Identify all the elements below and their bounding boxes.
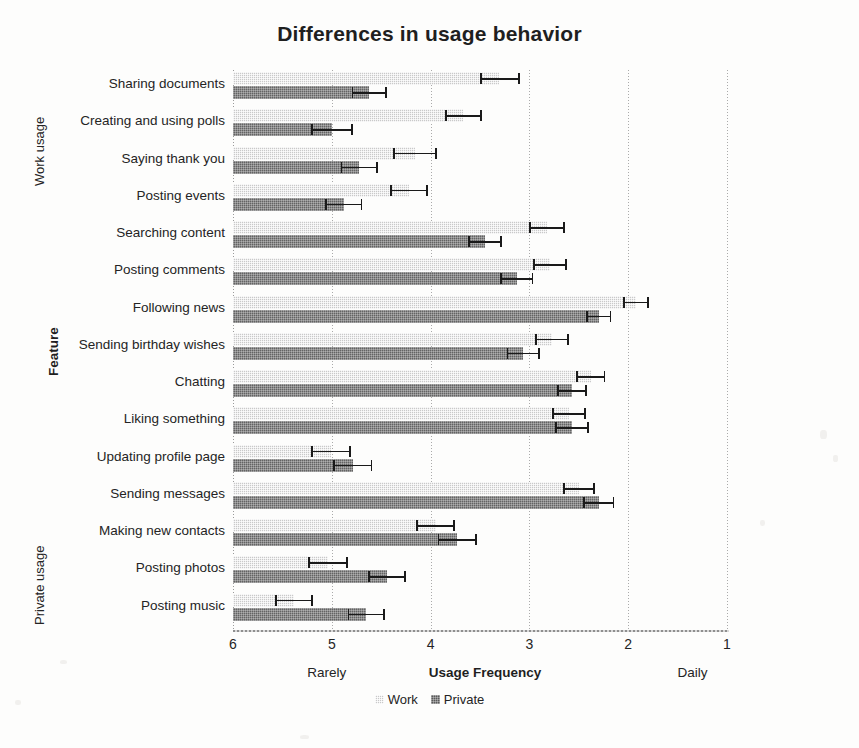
bar-group [233,519,727,552]
group-label-private-usage: Private usage [32,546,47,626]
error-bar-private [352,86,388,99]
scan-artifact [833,455,838,462]
bar-private [233,421,572,434]
bar-group [233,594,727,627]
bar-group [233,445,727,478]
error-bar-private [557,384,587,397]
error-bar-private [555,421,589,434]
error-bar-work [552,407,586,420]
x-axis-anchor-daily: Daily [632,665,752,680]
error-bar-work [393,147,436,160]
bar-group [233,184,727,217]
gridline-1 [727,70,728,629]
legend-swatch-private-icon [431,695,440,704]
bar-work [233,184,409,197]
bar-work [233,72,499,85]
chart-canvas: Differences in usage behavior Sharing do… [0,0,859,748]
bar-work [233,370,591,383]
error-bar-work [311,445,351,458]
y-axis-title: Feature [46,327,61,376]
y-axis-label: Sending messages [25,486,225,501]
bar-group [233,296,727,329]
error-bar-private [438,533,478,546]
scan-artifact [15,700,21,705]
scan-artifact [60,660,67,664]
chart-legend: Work Private [0,692,859,707]
bar-private [233,384,572,397]
x-axis-anchor-rarely: Rarely [267,665,387,680]
y-axis-label: Liking something [25,411,225,426]
error-bar-work [535,333,569,346]
bar-work [233,109,463,122]
y-axis-label: Searching content [25,225,225,240]
error-bar-work [308,556,348,569]
bar-work [233,333,552,346]
x-tick-1: 1 [707,636,747,652]
bar-private [233,533,457,546]
y-axis-label: Following news [25,300,225,315]
error-bar-private [507,347,541,360]
x-axis-line [233,630,729,632]
scan-artifact [820,430,827,439]
bar-work [233,221,547,234]
bar-group [233,407,727,440]
y-axis-label: Posting music [25,598,225,613]
x-tick-2: 2 [608,636,648,652]
bar-private [233,235,485,248]
y-axis-label: Saying thank you [25,151,225,166]
error-bar-work [563,482,595,495]
x-tick-3: 3 [509,636,549,652]
error-bar-work [275,594,313,607]
y-axis-label: Posting photos [25,560,225,575]
bar-group [233,72,727,105]
error-bar-private [500,272,534,285]
bar-private [233,496,599,509]
x-tick-5: 5 [312,636,352,652]
error-bar-work [445,109,482,122]
legend-swatch-work-icon [375,695,384,704]
error-bar-work [623,296,649,309]
bar-work [233,519,436,532]
error-bar-private [333,459,373,472]
bar-group [233,147,727,180]
bar-group [233,482,727,515]
group-label-work-usage: Work usage [32,116,47,185]
error-bar-work [416,519,456,532]
error-bar-work [533,258,567,271]
error-bar-private [583,496,615,509]
legend-label-work: Work [388,692,418,707]
error-bar-private [586,310,612,323]
y-axis-label: Creating and using polls [25,113,225,128]
bar-group [233,370,727,403]
bar-work [233,407,569,420]
bar-private [233,272,517,285]
legend-item-private: Private [431,692,484,707]
scan-artifact [300,735,309,739]
bar-private [233,310,599,323]
bar-work [233,147,415,160]
error-bar-work [480,72,520,85]
error-bar-work [390,184,428,197]
bar-private [233,570,387,583]
error-bar-private [348,608,386,621]
y-axis-label: Making new contacts [25,523,225,538]
bar-group [233,109,727,142]
bar-work [233,258,550,271]
error-bar-private [311,123,352,136]
legend-label-private: Private [444,692,484,707]
plot-area [233,70,727,629]
error-bar-work [529,221,565,234]
bar-work [233,296,636,309]
y-axis-label: Chatting [25,374,225,389]
x-tick-4: 4 [411,636,451,652]
y-axis-label: Sharing documents [25,76,225,91]
bar-group [233,556,727,589]
y-axis-label: Posting comments [25,262,225,277]
legend-item-work: Work [375,692,418,707]
x-axis-title: Usage Frequency [385,665,585,680]
y-axis-label: Posting events [25,188,225,203]
error-bar-work [576,370,606,383]
error-bar-private [325,198,363,211]
error-bar-private [468,235,502,248]
error-bar-private [368,570,406,583]
